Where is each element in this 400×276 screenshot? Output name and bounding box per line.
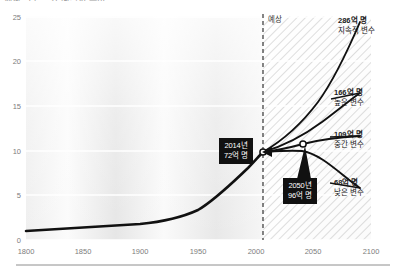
x-tick-label: 1850	[75, 247, 92, 256]
callout-2014-population: 72억 명	[224, 151, 248, 161]
callout-2014: 2014년 72억 명	[219, 138, 253, 164]
x-tick-label: 1900	[132, 247, 149, 256]
annotation-constant-label: 지속적 변수	[338, 26, 375, 36]
x-tick-label: 2100	[363, 247, 380, 256]
annotation-constant: 286억 명 지속적 변수	[338, 16, 375, 35]
x-tick-label: 2000	[248, 247, 265, 256]
y-tick-label: 20	[13, 57, 21, 66]
x-tick-label: 2050	[305, 247, 322, 256]
annotation-constant-value: 286억 명	[338, 16, 375, 26]
x-tick-label: 1950	[190, 247, 207, 256]
x-tick-label: 1800	[18, 247, 35, 256]
callout-2050: 2050년 96억 명	[283, 178, 317, 204]
annotation-medium-value: 109억 명	[334, 130, 364, 140]
annotation-high: 166억 명 높은 변수	[334, 88, 364, 107]
annotation-low-value: 68억 명	[334, 178, 364, 188]
annotation-high-value: 166억 명	[334, 88, 364, 98]
callout-2050-population: 96억 명	[288, 191, 312, 201]
annotation-high-label: 높은 변수	[334, 98, 364, 108]
annotation-medium: 109억 명 중간 변수	[334, 130, 364, 149]
marker-2050	[300, 141, 306, 147]
callout-2050-year: 2050년	[288, 181, 312, 191]
y-tick-label: 5	[17, 191, 21, 200]
forecast-region	[263, 16, 371, 240]
annotation-low-label: 낮은 변수	[334, 188, 364, 198]
y-tick-label: 10	[13, 147, 21, 156]
callout-2014-year: 2014년	[224, 141, 248, 151]
y-tick-label: 0	[17, 236, 21, 245]
x-axis-ticks: 1800 1850 1900 1950 2000 2050 2100	[18, 247, 380, 256]
population-projection-chart: 세계 인구 증가 예상치 추이	[0, 0, 400, 276]
forecast-label: 예상	[268, 13, 282, 24]
y-tick-label: 25	[13, 13, 21, 22]
y-axis-ticks: 0 5 10 15 20 25	[13, 13, 21, 245]
y-tick-label: 15	[13, 102, 21, 111]
annotation-low: 68억 명 낮은 변수	[334, 178, 364, 197]
annotation-medium-label: 중간 변수	[334, 140, 364, 150]
